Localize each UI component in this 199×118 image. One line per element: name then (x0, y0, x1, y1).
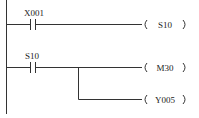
contact-s10-icon (31, 62, 36, 73)
contact-label: S10 (25, 51, 39, 61)
coil-label: Y005 (150, 95, 180, 105)
coil-label: S10 (150, 20, 180, 30)
coil-label: M30 (150, 63, 180, 73)
contact-label: X001 (24, 8, 44, 18)
contact-x001-icon (31, 19, 36, 30)
